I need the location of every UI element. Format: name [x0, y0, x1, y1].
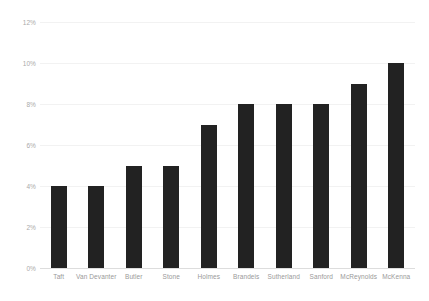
x-tick-label: Stone — [163, 272, 181, 281]
x-tick-label: Holmes — [197, 272, 220, 281]
bar — [126, 166, 142, 269]
x-tick-label: Brandeis — [233, 272, 259, 281]
x-tick-label: Butler — [125, 272, 143, 281]
bar — [388, 63, 404, 268]
x-tick-label: Sutherland — [268, 272, 300, 281]
y-tick-label: 8% — [2, 101, 36, 108]
y-tick-label: 6% — [2, 142, 36, 149]
bar — [88, 186, 104, 268]
bar — [313, 104, 329, 268]
bar — [163, 166, 179, 269]
y-tick-label: 2% — [2, 224, 36, 231]
y-tick-label: 0% — [2, 265, 36, 272]
bar — [351, 84, 367, 269]
bar — [238, 104, 254, 268]
x-tick-label: McReynolds — [340, 272, 377, 281]
x-axis: TaftVan DevanterButlerStoneHolmesBrandei… — [40, 272, 415, 286]
y-tick-label: 10% — [2, 60, 36, 67]
x-tick-label: Van Devanter — [76, 272, 116, 281]
bar — [276, 104, 292, 268]
x-tick-label: Sanford — [310, 272, 333, 281]
plot-area — [40, 22, 415, 268]
y-tick-label: 12% — [2, 19, 36, 26]
bar — [51, 186, 67, 268]
bar — [201, 125, 217, 269]
y-tick-label: 4% — [2, 183, 36, 190]
gridline-0% — [40, 268, 415, 269]
bar-chart: 0%2%4%6%8%10%12% TaftVan DevanterButlerS… — [0, 0, 429, 301]
x-tick-label: Taft — [53, 272, 64, 281]
x-tick-label: McKenna — [382, 272, 410, 281]
y-axis: 0%2%4%6%8%10%12% — [0, 22, 36, 268]
bar-series — [40, 22, 415, 268]
